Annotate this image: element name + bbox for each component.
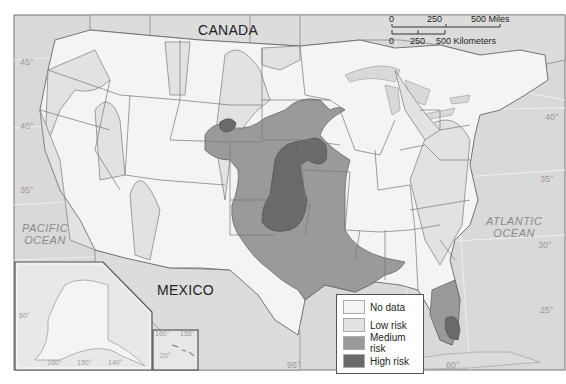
scale-miles-0: 0 <box>389 14 394 24</box>
mexico-label: MEXICO <box>157 282 214 298</box>
lat-label-40-left: 40° <box>20 121 34 131</box>
lon-label-80: 80° <box>446 360 460 370</box>
scale-miles-500: 500 Miles <box>471 14 510 24</box>
legend-label: Low risk <box>370 320 407 331</box>
scale-km-0: 0 <box>389 36 394 46</box>
lat-label-25-right: 25° <box>540 305 554 315</box>
lat-label-35-right: 35° <box>540 174 554 184</box>
high-risk-swatch <box>343 354 365 368</box>
alaska-lon-140: 140° <box>108 359 122 366</box>
scale-km-500: 500 Kilometers <box>436 36 496 46</box>
pacific-ocean-label: PACIFIC OCEAN <box>22 222 68 246</box>
legend-item-no-data: No data <box>343 298 423 316</box>
lat-label-30-right: 30° <box>538 240 552 250</box>
hawaii-lat-20: 20° <box>160 352 171 359</box>
legend-label: High risk <box>370 356 409 367</box>
canada-label: CANADA <box>198 22 258 38</box>
risk-map <box>0 0 566 384</box>
lat-label-35-left: 35° <box>20 185 34 195</box>
legend: No data Low risk Medium risk High risk <box>336 294 424 374</box>
legend-item-high-risk: High risk <box>343 352 423 370</box>
scale-km-250: 250 <box>410 36 425 46</box>
hawaii-lon-155: 155° <box>180 330 194 337</box>
lon-label-95: 95° <box>287 360 301 370</box>
alaska-lon-150: 150° <box>77 359 91 366</box>
legend-label: Medium risk <box>370 332 423 354</box>
atlantic-ocean-label: ATLANTIC OCEAN <box>486 215 542 239</box>
lat-label-45-left: 45° <box>20 57 34 67</box>
legend-item-medium-risk: Medium risk <box>343 334 423 352</box>
medium-risk-swatch <box>343 336 365 350</box>
lat-label-40-right: 40° <box>545 112 559 122</box>
alaska-lon-160: 160° <box>47 359 61 366</box>
low-risk-swatch <box>343 318 365 332</box>
scale-miles-250: 250 <box>427 14 442 24</box>
legend-label: No data <box>370 302 405 313</box>
hawaii-lon-160: 160° <box>155 330 169 337</box>
no-data-swatch <box>343 300 365 314</box>
alaska-lat-60: 60° <box>19 312 30 319</box>
